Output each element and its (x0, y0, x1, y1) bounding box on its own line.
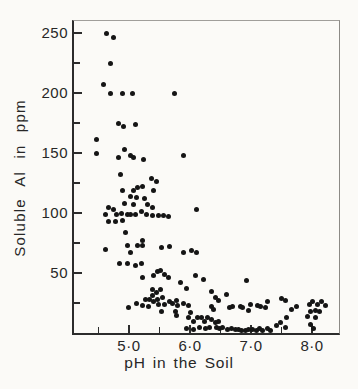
x-axis-minor-tick (159, 327, 161, 333)
data-point (268, 328, 273, 333)
data-point (104, 31, 109, 36)
data-point (284, 315, 289, 320)
data-point (103, 212, 108, 217)
y-axis-major-tick (74, 92, 82, 94)
data-point (154, 290, 159, 295)
data-point (167, 244, 172, 249)
data-point (263, 305, 268, 310)
y-tick-label: 150 (24, 144, 68, 161)
data-point (184, 286, 189, 291)
data-point (131, 155, 136, 160)
data-point (265, 299, 270, 304)
data-point (120, 218, 125, 223)
data-point (193, 273, 198, 278)
data-point (240, 305, 245, 310)
data-point (134, 301, 139, 306)
data-point (141, 157, 146, 162)
data-point (140, 243, 145, 248)
x-axis-minor-tick (98, 327, 100, 333)
data-point (159, 309, 164, 314)
data-point (202, 319, 207, 324)
x-axis-title: pH in the Soil (124, 354, 233, 372)
data-point (120, 91, 125, 96)
data-point (172, 91, 177, 96)
data-point (213, 320, 218, 325)
data-point (106, 219, 111, 224)
y-axis-major-tick (74, 32, 82, 34)
data-point (103, 247, 108, 252)
data-point (178, 280, 183, 285)
data-point (125, 243, 130, 248)
data-point (162, 302, 167, 307)
data-point (126, 305, 131, 310)
data-point (189, 248, 194, 253)
data-point (166, 214, 171, 219)
x-axis-major-tick (128, 325, 130, 333)
data-point (140, 184, 145, 189)
plot-area (72, 20, 340, 335)
data-point (94, 137, 99, 142)
y-axis-major-tick (74, 212, 82, 214)
x-tick-label: 6·0 (178, 337, 201, 354)
data-point (150, 205, 155, 210)
data-point (175, 303, 180, 308)
data-point (194, 207, 199, 212)
x-tick-label: 8·0 (301, 337, 324, 354)
data-point (150, 213, 155, 218)
data-point (128, 250, 133, 255)
data-point (166, 275, 171, 280)
data-point (111, 35, 116, 40)
data-point (154, 179, 159, 184)
data-point (283, 298, 288, 303)
y-axis-minor-tick (74, 242, 80, 244)
data-point (186, 315, 191, 320)
y-tick-label: 250 (24, 24, 68, 41)
data-point (158, 287, 163, 292)
y-tick-label: 100 (24, 204, 68, 221)
data-point (248, 302, 253, 307)
y-tick-label: 50 (24, 264, 68, 281)
data-point (289, 307, 294, 312)
data-point (101, 82, 106, 87)
y-axis-minor-tick (74, 302, 80, 304)
data-point (294, 304, 299, 309)
data-point (184, 326, 189, 331)
data-point (197, 325, 202, 330)
data-point (209, 289, 214, 294)
data-point (123, 230, 128, 235)
data-point (119, 211, 124, 216)
data-point (144, 212, 149, 217)
data-point (181, 153, 186, 158)
y-axis-title: Soluble Al in ppm (11, 99, 28, 256)
data-point (224, 292, 229, 297)
data-point (311, 326, 316, 331)
data-point (207, 325, 212, 330)
data-point (283, 325, 288, 330)
data-point (139, 261, 144, 266)
data-point (174, 313, 179, 318)
data-point (160, 295, 165, 300)
data-point (133, 263, 138, 268)
data-point (121, 124, 126, 129)
data-point (140, 303, 145, 308)
data-point (122, 201, 127, 206)
data-point (133, 122, 138, 127)
data-point (122, 147, 127, 152)
data-point (108, 91, 113, 96)
data-point (216, 298, 221, 303)
data-point (133, 212, 138, 217)
data-point (125, 261, 130, 266)
data-point (274, 323, 279, 328)
data-point (191, 327, 196, 332)
data-point (130, 91, 135, 96)
data-point (140, 275, 145, 280)
data-point (278, 320, 283, 325)
data-point (117, 261, 122, 266)
data-point (142, 196, 147, 201)
data-point (134, 195, 139, 200)
x-tick-label: 5·0 (117, 337, 140, 354)
data-point (323, 303, 328, 308)
data-point (113, 219, 118, 224)
data-point (227, 305, 232, 310)
data-point (313, 315, 318, 320)
